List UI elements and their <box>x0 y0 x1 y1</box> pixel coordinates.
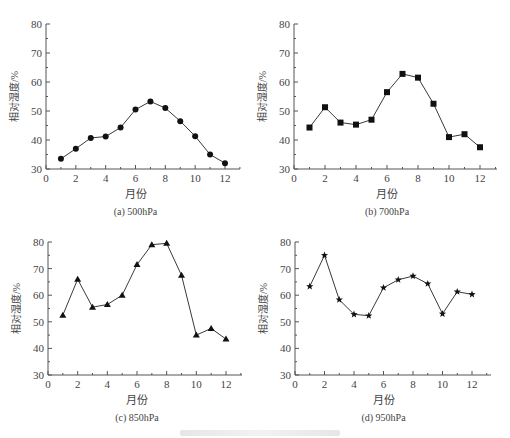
data-point-marker <box>415 75 421 81</box>
square-marker-icon <box>384 89 390 95</box>
data-point-marker <box>462 131 468 137</box>
square-marker-icon <box>477 144 483 150</box>
data-line <box>310 255 472 315</box>
x-axis-label: 月份 <box>373 394 395 406</box>
x-tick-label: 4 <box>105 378 111 390</box>
star-marker-icon <box>454 288 461 295</box>
circle-marker-icon <box>103 134 109 140</box>
x-tick-label: 0 <box>291 172 297 184</box>
data-point-marker <box>454 288 461 295</box>
data-point-marker <box>223 336 230 342</box>
y-tick-label: 60 <box>279 76 291 88</box>
y-tick-label: 30 <box>280 369 292 381</box>
data-point-marker <box>73 146 79 152</box>
circle-marker-icon <box>192 133 198 139</box>
y-tick-label: 40 <box>280 342 292 354</box>
circle-marker-icon <box>118 125 124 131</box>
data-point-marker <box>119 292 126 298</box>
y-tick-label: 30 <box>279 163 291 175</box>
y-tick-label: 60 <box>33 289 45 301</box>
data-point-marker <box>400 71 406 77</box>
square-marker-icon <box>338 120 344 126</box>
y-axis-label: 相对湿度/% <box>8 71 20 122</box>
data-point-marker <box>58 156 64 162</box>
y-tick-label: 60 <box>31 76 43 88</box>
data-point-marker <box>133 107 139 113</box>
y-tick-label: 70 <box>33 263 45 275</box>
y-tick-label: 50 <box>33 316 45 328</box>
chart-panel-a: 024681012304050607080月份相对湿度/%(a) 500hPa <box>0 0 255 210</box>
x-tick-label: 6 <box>384 172 390 184</box>
x-tick-label: 2 <box>322 172 328 184</box>
x-tick-label: 0 <box>45 378 51 390</box>
star-marker-icon <box>439 310 446 317</box>
triangle-marker-icon <box>193 332 200 338</box>
y-tick-label: 50 <box>280 316 292 328</box>
x-axis-label: 月份 <box>376 188 398 200</box>
y-tick-label: 40 <box>33 342 45 354</box>
circle-marker-icon <box>207 152 213 158</box>
data-point-marker <box>424 280 431 287</box>
x-tick-label: 4 <box>351 378 357 390</box>
data-point-marker <box>431 101 437 107</box>
data-point-marker <box>177 118 183 124</box>
figure: 024681012304050607080月份相对湿度/%(a) 500hPa … <box>0 0 510 438</box>
x-tick-label: 12 <box>220 172 231 184</box>
triangle-marker-icon <box>119 292 126 298</box>
x-tick-label: 6 <box>134 378 140 390</box>
star-marker-icon <box>321 252 328 259</box>
chart-title: (d) 950hPa <box>361 412 406 424</box>
x-tick-label: 10 <box>190 172 202 184</box>
x-tick-label: 0 <box>292 378 298 390</box>
square-marker-icon <box>446 134 452 140</box>
data-point-marker <box>104 301 111 307</box>
circle-marker-icon <box>147 98 153 104</box>
data-point-marker <box>118 125 124 131</box>
data-point-marker <box>59 312 66 318</box>
y-tick-label: 70 <box>280 263 292 275</box>
triangle-marker-icon <box>178 272 185 278</box>
x-tick-label: 8 <box>410 378 416 390</box>
y-axis-label: 相对湿度/% <box>257 283 269 334</box>
x-tick-label: 4 <box>353 172 359 184</box>
y-tick-label: 50 <box>31 105 43 117</box>
circle-marker-icon <box>222 160 228 166</box>
square-marker-icon <box>322 104 328 110</box>
data-point-marker <box>369 117 375 123</box>
square-marker-icon <box>415 75 421 81</box>
circle-marker-icon <box>162 105 168 111</box>
x-tick-label: 6 <box>381 378 387 390</box>
y-tick-label: 40 <box>31 134 43 146</box>
y-tick-label: 80 <box>33 236 45 248</box>
y-tick-label: 60 <box>280 289 292 301</box>
data-point-marker <box>222 160 228 166</box>
data-point-marker <box>353 122 359 128</box>
data-point-marker <box>208 325 215 331</box>
star-marker-icon <box>380 284 387 291</box>
x-tick-label: 8 <box>163 172 169 184</box>
data-point-marker <box>88 135 94 141</box>
chart-panel-c: 024681012304050607080月份相对湿度/%(c) 850hPa <box>0 218 255 428</box>
data-point-marker <box>380 284 387 291</box>
triangle-marker-icon <box>104 301 111 307</box>
x-tick-label: 12 <box>467 378 478 390</box>
star-marker-icon <box>306 283 313 290</box>
data-point-marker <box>468 291 475 298</box>
star-marker-icon <box>395 276 402 283</box>
square-marker-icon <box>353 122 359 128</box>
triangle-marker-icon <box>74 276 81 282</box>
y-tick-label: 30 <box>33 369 45 381</box>
x-tick-label: 10 <box>444 172 456 184</box>
x-axis-label: 月份 <box>126 394 148 406</box>
y-tick-label: 50 <box>279 105 291 117</box>
data-point-marker <box>207 152 213 158</box>
data-line <box>310 74 481 147</box>
star-marker-icon <box>424 280 431 287</box>
y-axis-label: 相对湿度/% <box>10 283 22 334</box>
x-axis-label: 月份 <box>125 188 147 200</box>
chart-a-svg: 024681012304050607080月份相对湿度/%(a) 500hPa <box>0 0 255 218</box>
chart-panel-b: 024681012304050607080月份相对湿度/%(b) 700hPa <box>255 0 510 210</box>
star-marker-icon <box>365 312 372 319</box>
x-tick-label: 8 <box>415 172 421 184</box>
square-marker-icon <box>462 131 468 137</box>
